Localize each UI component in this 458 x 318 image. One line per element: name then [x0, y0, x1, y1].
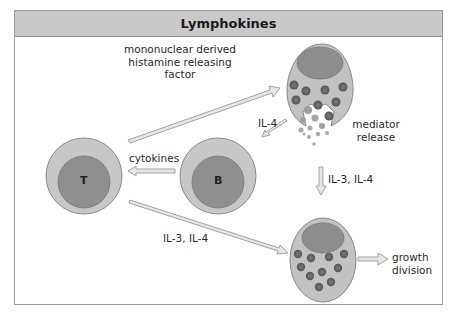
growth-line-1: growth [392, 251, 432, 264]
cytokines-label: cytokines [129, 152, 179, 165]
growth-line-2: division [392, 264, 432, 277]
mhrf-line-2: histamine releasing [120, 56, 240, 69]
growth-division-label: growth division [392, 251, 432, 276]
mast-cell-granulated [290, 218, 356, 302]
il3-il4-vertical-label: IL-3, IL-4 [328, 173, 373, 186]
arrow-t-to-mast-cell [128, 86, 280, 143]
arrow-cytokines-b-to-t [128, 166, 175, 176]
mhrf-line-3: factor [120, 68, 240, 81]
arrow-vertical-il3-il4 [316, 167, 326, 195]
il3-il4-diagonal-label: IL-3, IL-4 [163, 232, 208, 245]
mast-cell-degranulating [287, 44, 353, 146]
mhrf-line-1: mononuclear derived [120, 43, 240, 56]
mediator-line-2: release [348, 131, 404, 144]
mediator-release-label: mediator release [348, 118, 404, 143]
arrow-growth-division [358, 253, 388, 265]
t-cell-label: T [80, 174, 88, 187]
mhrf-label: mononuclear derived histamine releasing … [120, 43, 240, 81]
il4-label: IL-4 [258, 117, 277, 130]
mediator-line-1: mediator [348, 118, 404, 131]
b-cell-label: B [214, 174, 222, 187]
